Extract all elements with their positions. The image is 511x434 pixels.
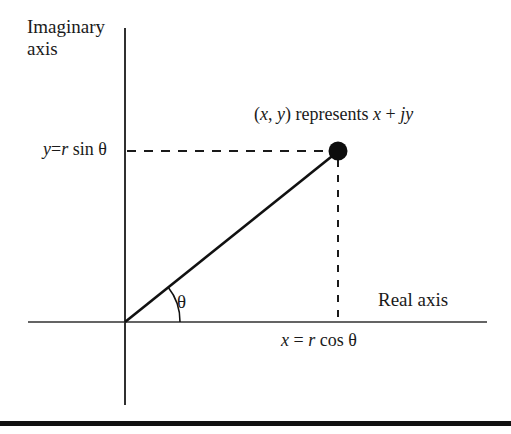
real-axis-label: Real axis (378, 289, 448, 311)
y-equation-variable: y (43, 139, 51, 159)
y-equation-function: sin (68, 139, 98, 159)
point-real-part: x (373, 104, 381, 124)
point-comma: , (268, 104, 277, 124)
imaginary-axis-label: Imaginary axis (27, 16, 127, 61)
y-component-equation: y=r sin θ (43, 139, 107, 160)
x-equation-equals: = (289, 330, 308, 350)
point-x-variable: x (260, 104, 268, 124)
x-equation-function: cos (315, 330, 348, 350)
x-component-equation: x = r cos θ (281, 330, 357, 351)
point-represents-word: represents (296, 104, 373, 124)
radius-vector-line (125, 153, 336, 322)
theta-angle-label: θ (177, 291, 186, 313)
complex-plane-figure: Imaginary axis Real axis θ y=r sin θ x =… (0, 0, 511, 434)
point-plus-sign: + (381, 104, 400, 124)
point-marker-dot (329, 142, 348, 161)
y-equation-angle: θ (98, 139, 107, 159)
point-y-variable: y (277, 104, 285, 124)
diagram-canvas (0, 0, 511, 434)
y-equation-equals: = (51, 139, 61, 159)
x-equation-variable: x (281, 330, 289, 350)
point-close-paren: ) (285, 104, 296, 124)
bottom-rule-divider (0, 421, 511, 426)
point-representation-equation: (x, y) represents x + jy (254, 104, 413, 125)
point-imaginary-variable: y (405, 104, 413, 124)
x-equation-angle: θ (348, 330, 357, 350)
